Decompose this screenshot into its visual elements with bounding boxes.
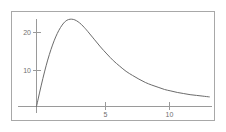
chart-figure: 20 10 5 10: [0, 0, 226, 132]
y-axis-tick-label-20: 20: [14, 29, 31, 36]
x-axis-tick-label-5: 5: [98, 111, 113, 118]
x-axis-tick-label-10: 10: [162, 111, 177, 118]
y-axis-tick-label-10: 10: [14, 67, 31, 74]
density-curve: [37, 19, 210, 106]
plot-canvas: [0, 0, 226, 132]
